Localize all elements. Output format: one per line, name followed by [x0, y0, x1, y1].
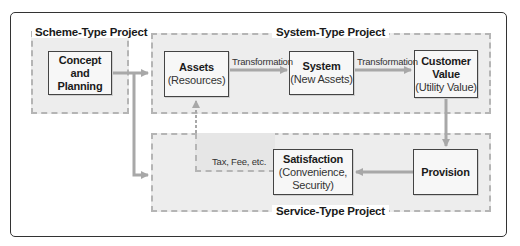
edge-label-tax-fee: Tax, Fee, etc.	[212, 156, 266, 167]
node-subtitle: (Resources)	[168, 74, 226, 87]
node-subtitle: (Convenience,	[279, 166, 347, 179]
node-subtitle: (New Assets)	[290, 73, 352, 86]
node-title-line2: Value	[432, 68, 460, 81]
node-title: Customer	[421, 55, 471, 68]
node-title: Satisfaction	[283, 153, 343, 166]
node-customer-value: Customer Value (Utility Value)	[414, 50, 478, 98]
node-title: Concept and	[49, 54, 111, 80]
edge-label-assets-to-system: Transformation	[232, 56, 293, 67]
node-title: Assets	[179, 61, 214, 74]
group-label-system: System-Type Project	[272, 26, 389, 38]
node-system: System (New Assets)	[289, 51, 354, 95]
node-concept-and-planning: Concept and Planning	[48, 51, 112, 95]
node-title: System	[303, 60, 341, 73]
node-subtitle-line2: Security)	[292, 179, 334, 192]
group-label-service: Service-Type Project	[272, 205, 389, 217]
edge-label-system-to-value: Transformation	[357, 56, 418, 67]
node-title: Provision	[421, 166, 469, 179]
node-title-line2: Planning	[58, 80, 103, 93]
node-assets: Assets (Resources)	[164, 51, 229, 97]
node-provision: Provision	[413, 149, 478, 195]
node-satisfaction: Satisfaction (Convenience, Security)	[273, 149, 353, 195]
node-subtitle: (Utility Value)	[415, 81, 477, 94]
group-label-scheme: Scheme-Type Project	[32, 26, 150, 38]
